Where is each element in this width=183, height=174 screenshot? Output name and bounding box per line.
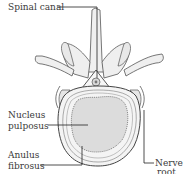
label-spinal-canal: Spinal canal xyxy=(8,2,64,12)
spinal-cord-center xyxy=(95,81,98,84)
leader-nerve-root xyxy=(144,110,154,163)
label-anulus-line1: Anulus xyxy=(8,150,39,160)
label-nerve-line2: root xyxy=(157,168,176,174)
spinous-process xyxy=(88,8,104,72)
label-nucleus-line2: pulposus xyxy=(8,121,49,131)
label-anulus-line2: fibrosus xyxy=(8,161,45,171)
transverse-process-right xyxy=(124,54,163,76)
vertebra-diagram xyxy=(0,0,183,174)
label-nucleus-line1: Nucleus xyxy=(8,110,45,120)
